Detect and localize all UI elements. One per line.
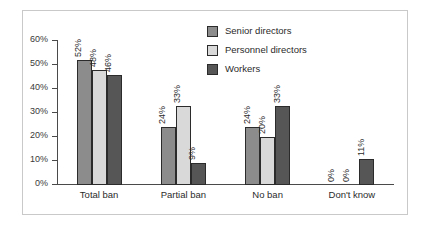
bar[interactable] [275,106,290,185]
y-axis-tick-label: 10% [8,155,48,164]
bar[interactable] [359,159,374,185]
bar-value-label: 52% [73,39,84,57]
y-axis-tick-label: 30% [8,107,48,116]
x-axis-category-label: Partial ban [141,189,225,200]
y-axis-tick-mark [52,136,57,137]
bar-slot: 9% [191,40,206,185]
bar[interactable] [245,127,260,185]
bar-slot: 33% [176,40,191,185]
bar[interactable] [92,70,107,185]
bar[interactable] [107,75,122,185]
bar-value-label: 33% [272,85,283,103]
y-axis-tick-label: 20% [8,131,48,140]
chart-legend: Senior directors Personnel directors Wor… [207,24,357,81]
legend-swatch-icon-senior-directors [207,26,218,37]
bar-slot: 46% [107,40,122,185]
bar[interactable] [191,163,206,185]
y-axis-tick-label: 0% [8,179,48,188]
legend-label-personnel-directors: Personnel directors [225,44,307,56]
bar-value-label: 24% [242,106,253,124]
legend-swatch-icon-personnel-directors [207,45,218,56]
y-axis-tick-mark [52,64,57,65]
legend-item-workers: Workers [207,62,357,77]
bar-slot: 24% [161,40,176,185]
bar-value-label: 0% [326,169,337,182]
y-axis-tick-label: 50% [8,59,48,68]
y-axis-tick-label: 60% [8,35,48,44]
bar-value-label: 11% [356,138,367,155]
bar-value-label: 24% [157,106,168,124]
x-axis-category-label: No ban [226,189,310,200]
y-axis-tick-mark [52,160,57,161]
bar[interactable] [260,137,275,185]
bar[interactable] [77,60,92,185]
bar-value-label: 9% [187,147,198,160]
bar-value-label: 0% [341,169,352,182]
bar[interactable] [176,106,191,185]
y-axis-tick-label: 40% [8,83,48,92]
legend-label-workers: Workers [225,63,260,75]
legend-item-senior-directors: Senior directors [207,24,357,39]
y-axis-tick-mark [52,112,57,113]
x-axis-category-label: Don't know [310,189,394,200]
x-axis-category-label: Total ban [57,189,141,200]
bar-value-label: 48% [88,49,99,67]
bar-group: 24%33%9% [161,40,206,185]
y-axis-tick-mark [52,40,57,41]
legend-item-personnel-directors: Personnel directors [207,43,357,58]
legend-label-senior-directors: Senior directors [225,25,292,37]
bar[interactable] [161,127,176,185]
bar-value-label: 20% [257,116,268,134]
y-axis-tick-mark [52,88,57,89]
legend-swatch-icon-workers [207,64,218,75]
y-axis-line [57,40,58,185]
bar-value-label: 46% [103,54,114,72]
bar-slot: 11% [359,40,374,185]
chart-figure: 0%10%20%30%40%50%60% 52%48%46%24%33%9%24… [0,0,425,230]
bar-value-label: 33% [172,85,183,103]
y-axis-tick-mark [52,184,57,185]
bar-group: 52%48%46% [77,40,122,185]
